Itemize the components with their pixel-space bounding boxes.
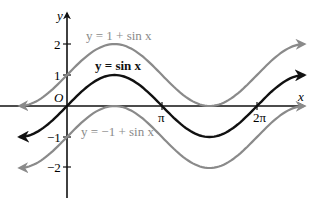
x-tick-label-2pi: 2π (253, 110, 267, 125)
y-tick-label-m1: −1 (47, 130, 61, 145)
curve-label-upper: y = 1 + sin x (86, 28, 152, 43)
y-tick-label-1: 1 (54, 68, 61, 83)
curve-label-lower: y = −1 + sin x (81, 124, 154, 139)
curve-label-mid: y = sin x (95, 58, 142, 73)
x-axis-label: x (297, 89, 304, 104)
origin-label: O (54, 90, 64, 105)
y-tick-label-2: 2 (54, 37, 61, 52)
y-axis-label: y (55, 8, 63, 23)
sine-graph: y x O 2 1 −1 −2 π 2π y = 1 + sin x y = s… (0, 0, 321, 212)
y-tick-label-m2: −2 (47, 160, 61, 175)
x-tick-label-pi: π (158, 110, 165, 125)
